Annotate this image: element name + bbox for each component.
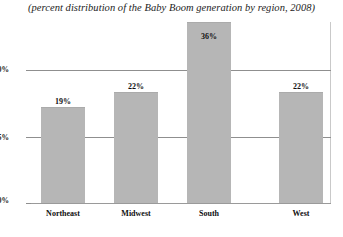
bar-northeast[interactable] [41,107,85,203]
gridline-30 [31,70,331,71]
y-axis-tick-label-15: 15% [0,134,9,142]
tick-0-icon [26,203,31,204]
plot-area [31,22,331,203]
bar-value-northeast: 19% [41,97,85,106]
category-label-northeast: Northeast [31,209,95,218]
bar-chart-figure: (percent distribution of the Baby Boom g… [0,0,343,237]
bar-south[interactable] [187,22,231,203]
category-label-west: West [269,209,333,218]
y-axis-tick-label-0: 0% [0,197,9,205]
bar-value-midwest: 22% [114,82,158,91]
bar-midwest[interactable] [114,92,158,203]
x-axis-baseline [31,203,331,204]
bar-value-south: 36% [187,32,231,41]
bar-value-west: 22% [279,82,323,91]
tick-30-icon [26,70,31,71]
chart-title: (percent distribution of the Baby Boom g… [0,1,343,14]
category-label-south: South [177,209,241,218]
y-axis-tick-label-30: 30% [0,66,9,74]
tick-15-icon [26,137,31,138]
category-label-midwest: Midwest [104,209,168,218]
bar-west[interactable] [279,92,323,203]
